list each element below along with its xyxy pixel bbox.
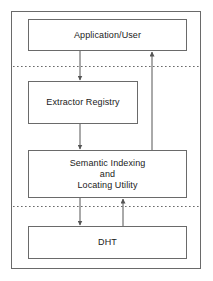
node-dht[interactable] [28, 226, 187, 259]
node-extractor-registry[interactable] [28, 81, 138, 124]
architecture-diagram: Application/User Extractor Registry Sema… [0, 0, 213, 281]
node-application-user[interactable] [28, 19, 187, 51]
node-semantic-indexing-and-locating-utility[interactable] [28, 150, 187, 198]
